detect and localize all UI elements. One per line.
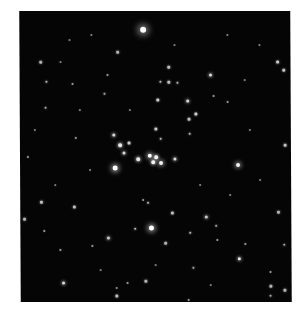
star bbox=[249, 129, 251, 131]
star bbox=[112, 133, 115, 136]
star bbox=[186, 100, 189, 103]
star bbox=[244, 79, 246, 81]
star bbox=[106, 74, 108, 76]
star bbox=[116, 287, 118, 289]
star bbox=[258, 44, 260, 46]
star bbox=[159, 81, 161, 83]
star bbox=[100, 269, 102, 271]
star bbox=[72, 83, 74, 85]
star bbox=[283, 244, 285, 246]
star bbox=[62, 281, 65, 284]
star bbox=[176, 82, 178, 84]
star bbox=[142, 199, 144, 201]
star bbox=[283, 289, 286, 292]
star bbox=[159, 161, 163, 165]
star bbox=[75, 137, 77, 139]
star bbox=[192, 267, 194, 269]
star bbox=[68, 39, 70, 41]
star bbox=[270, 271, 272, 273]
star bbox=[189, 133, 191, 135]
star bbox=[27, 156, 29, 158]
star bbox=[136, 157, 140, 161]
star bbox=[229, 194, 231, 196]
star bbox=[107, 237, 110, 240]
star bbox=[277, 211, 280, 214]
star bbox=[149, 226, 154, 231]
star bbox=[227, 101, 229, 103]
star-field-image bbox=[19, 11, 292, 302]
star bbox=[154, 128, 157, 131]
star bbox=[79, 109, 81, 111]
star bbox=[43, 230, 45, 232]
star bbox=[259, 179, 261, 181]
star bbox=[89, 169, 91, 171]
star bbox=[129, 109, 131, 111]
star bbox=[116, 51, 119, 54]
star bbox=[54, 184, 56, 186]
star bbox=[167, 66, 170, 69]
star bbox=[269, 285, 272, 288]
star bbox=[270, 295, 272, 297]
star bbox=[147, 202, 149, 204]
star bbox=[236, 163, 240, 167]
star bbox=[189, 232, 191, 234]
star bbox=[188, 299, 190, 301]
star bbox=[216, 239, 218, 241]
star bbox=[205, 216, 208, 219]
star bbox=[91, 245, 93, 247]
star bbox=[118, 143, 122, 147]
star bbox=[226, 34, 228, 36]
star bbox=[59, 61, 61, 63]
star bbox=[45, 107, 47, 109]
star bbox=[160, 138, 162, 140]
star bbox=[199, 184, 201, 186]
star bbox=[209, 73, 212, 76]
star bbox=[213, 95, 215, 97]
star bbox=[73, 206, 76, 209]
star bbox=[34, 129, 36, 131]
star bbox=[128, 142, 131, 145]
star bbox=[151, 160, 155, 164]
star bbox=[59, 249, 61, 251]
star bbox=[155, 264, 157, 266]
star bbox=[40, 201, 43, 204]
star bbox=[167, 81, 170, 84]
star bbox=[171, 212, 174, 215]
star bbox=[144, 280, 147, 283]
star bbox=[90, 34, 92, 36]
star bbox=[134, 228, 136, 230]
star bbox=[127, 282, 129, 284]
star bbox=[122, 152, 125, 155]
star bbox=[173, 157, 176, 160]
star bbox=[284, 144, 287, 147]
star bbox=[244, 243, 246, 245]
star bbox=[140, 27, 146, 33]
star bbox=[164, 242, 167, 245]
star bbox=[23, 218, 26, 221]
star bbox=[276, 61, 279, 64]
star bbox=[39, 61, 42, 64]
star bbox=[103, 93, 105, 95]
star bbox=[148, 154, 152, 158]
star bbox=[282, 69, 285, 72]
star bbox=[194, 113, 197, 116]
star bbox=[115, 295, 118, 298]
star bbox=[215, 225, 217, 227]
star bbox=[45, 81, 47, 83]
star bbox=[238, 257, 241, 260]
star bbox=[187, 118, 190, 121]
star bbox=[210, 284, 212, 286]
star bbox=[156, 99, 159, 102]
star bbox=[154, 155, 158, 159]
star bbox=[113, 166, 118, 171]
star bbox=[174, 44, 176, 46]
